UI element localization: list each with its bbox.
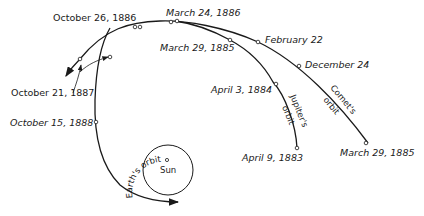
point-oct-26-1886-a (133, 25, 137, 29)
label-apr-3-1884: April 3, 1884 (210, 84, 272, 95)
point-oct-26-1886-b (138, 25, 142, 29)
point-dec-24 (297, 64, 301, 68)
point-oct-21-1887-comet (78, 57, 82, 61)
label-mar-24-1886: March 24, 1886 (166, 7, 241, 18)
label-dec-24: December 24 (305, 59, 369, 70)
label-oct-15-1888: October 15, 1888 (10, 117, 93, 128)
point-mar-24-1886-b (175, 19, 179, 23)
label-apr-9-1883: April 9, 1883 (241, 152, 303, 163)
label-oct-26-1886: October 26, 1886 (53, 12, 136, 23)
label-feb-22: February 22 (265, 34, 323, 45)
point-mar-29-1885-bottom (364, 141, 368, 145)
comet-return-path (95, 28, 178, 202)
point-oct-21-1887-jupiter (108, 55, 112, 59)
label-oct-21-1887: October 21, 1887 (11, 87, 94, 98)
label-mar-29-1885-bottom: March 29, 1885 (340, 147, 415, 158)
point-feb-22 (256, 40, 260, 44)
point-mar-24-1886-a (169, 20, 173, 24)
sun-label: Sun (160, 165, 176, 175)
sun-point (165, 158, 168, 161)
point-apr-3-1884 (274, 82, 278, 86)
label-mar-29-1885-top: March 29, 1885 (160, 42, 235, 53)
point-apr-9-1883 (295, 146, 299, 150)
comet-orbit-diagram: Sun Earth's orbit October 26, 1886 March… (0, 0, 424, 216)
pointer-line-2 (80, 57, 108, 72)
point-oct-15-1888 (94, 120, 98, 124)
